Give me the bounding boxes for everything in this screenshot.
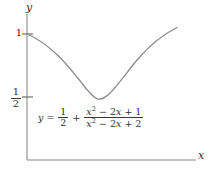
tick-half-fraction: 1 2: [11, 87, 21, 109]
tick-half-denominator: 2: [11, 99, 21, 110]
equation-lhs: y: [38, 112, 43, 123]
y-tick-label-half: 1 2: [6, 87, 22, 109]
numerator-middle: − 2: [96, 106, 116, 117]
x-axis-label: x: [198, 150, 204, 161]
y-axis-label: y: [26, 2, 32, 13]
numerator-tail: + 1: [121, 106, 141, 117]
equation-fraction-denominator: x2 − 2x + 2: [84, 118, 143, 129]
equation-annotation: y = 1 2 + x2 − 2x + 1 x2 − 2x + 2: [38, 106, 144, 129]
equation-constant-denominator: 2: [58, 118, 68, 128]
y-tick-label-1: 1: [8, 28, 22, 38]
denominator-middle: − 2: [96, 118, 116, 129]
denominator-tail: + 2: [121, 118, 141, 129]
equation-equals: =: [46, 112, 54, 123]
plot-svg: [0, 0, 213, 179]
equation-constant-fraction: 1 2: [58, 107, 68, 128]
equation-rational-fraction: x2 − 2x + 1 x2 − 2x + 2: [84, 106, 143, 129]
function-curve: [27, 28, 177, 100]
tick-half-numerator: 1: [11, 87, 21, 99]
equation-plus: +: [72, 112, 80, 123]
figure-container: y x 1 1 2 y = 1 2 + x2 − 2x + 1 x2 − 2x …: [0, 0, 213, 179]
